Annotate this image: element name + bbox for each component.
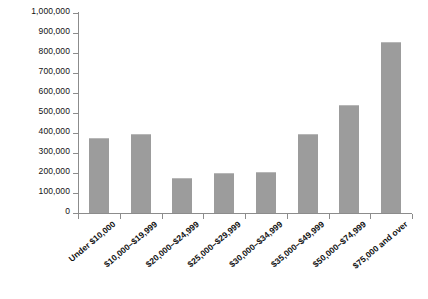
y-axis-tick-mark	[73, 153, 78, 154]
y-axis-tick-label: 0	[65, 207, 70, 216]
y-axis-tick-label: 700,000	[39, 67, 70, 76]
x-axis-tick-mark	[162, 214, 163, 219]
y-axis-tick-label: 100,000	[39, 187, 70, 196]
x-axis-tick-mark	[245, 214, 246, 219]
bar	[89, 138, 109, 213]
x-axis-tick-mark	[120, 214, 121, 219]
y-axis-tick-label: 1,000,000	[31, 7, 70, 16]
x-axis-tick-mark	[78, 214, 79, 219]
bar	[298, 134, 318, 213]
y-axis-tick-mark	[73, 113, 78, 114]
bar	[339, 105, 359, 213]
y-axis-tick-mark	[73, 173, 78, 174]
y-axis-tick-label: 900,000	[39, 27, 70, 36]
x-axis-tick-mark	[203, 214, 204, 219]
y-axis-tick-label: 300,000	[39, 147, 70, 156]
y-axis-tick-mark	[73, 73, 78, 74]
bar	[381, 42, 401, 213]
y-axis-tick-mark	[73, 53, 78, 54]
x-axis-tick-mark	[329, 214, 330, 219]
bar-chart: 0100,000200,000300,000400,000500,000600,…	[0, 0, 428, 299]
y-axis-tick-label: 400,000	[39, 127, 70, 136]
bar	[172, 178, 192, 213]
y-axis-tick-label: 200,000	[39, 167, 70, 176]
y-axis-tick-label: 600,000	[39, 87, 70, 96]
y-axis-tick-label: 500,000	[39, 107, 70, 116]
y-axis-tick-label: 800,000	[39, 47, 70, 56]
y-axis-tick-mark	[73, 133, 78, 134]
y-axis-tick-mark	[73, 33, 78, 34]
bar	[214, 173, 234, 213]
bar	[256, 172, 276, 213]
y-axis-tick-mark	[73, 193, 78, 194]
y-axis-line	[78, 12, 79, 214]
y-axis-tick-mark	[73, 13, 78, 14]
x-axis-tick-mark	[370, 214, 371, 219]
x-axis-tick-mark	[412, 214, 413, 219]
y-axis-tick-mark	[73, 93, 78, 94]
x-axis-tick-mark	[287, 214, 288, 219]
bar	[131, 134, 151, 213]
